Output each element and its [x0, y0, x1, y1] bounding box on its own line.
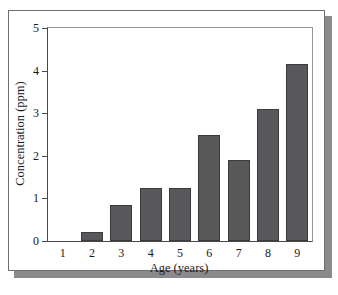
bar[interactable] — [110, 205, 132, 241]
y-axis-tick — [42, 71, 48, 72]
y-axis-tick — [42, 28, 48, 29]
bar-slot — [224, 28, 253, 241]
x-axis-tick-label: 1 — [60, 247, 66, 259]
x-axis-tick-label: 4 — [148, 247, 154, 259]
bar[interactable] — [140, 188, 162, 241]
y-axis-tick — [42, 156, 48, 157]
bar-slot — [136, 28, 165, 241]
bars-layer — [48, 28, 312, 241]
y-axis-tick-label: 2 — [33, 150, 39, 162]
y-axis-tick-label: 5 — [33, 22, 39, 34]
x-axis-tick-label: 9 — [294, 247, 300, 259]
y-axis-tick-label: 3 — [33, 107, 39, 119]
figure-shadow-right — [325, 16, 332, 278]
bar[interactable] — [81, 232, 103, 241]
y-axis-tick — [42, 113, 48, 114]
bar-slot — [283, 28, 312, 241]
bar[interactable] — [198, 135, 220, 242]
figure-root: Concentration (ppm) 012345123456789 Age … — [0, 0, 338, 295]
bar-slot — [48, 28, 77, 241]
y-axis-tick-label: 4 — [33, 65, 39, 77]
bar[interactable] — [228, 160, 250, 241]
y-axis-tick — [42, 241, 48, 242]
x-axis-tick-label: 7 — [236, 247, 242, 259]
bar-slot — [77, 28, 106, 241]
y-axis-tick — [42, 198, 48, 199]
x-axis-tick-label: 5 — [177, 247, 183, 259]
x-axis-title: Age (years) — [47, 262, 311, 275]
x-axis-tick-label: 2 — [89, 247, 95, 259]
bar[interactable] — [257, 109, 279, 241]
y-axis-title: Concentration (ppm) — [12, 27, 28, 240]
x-axis-tick-label: 3 — [118, 247, 124, 259]
bar[interactable] — [286, 64, 308, 241]
bar-slot — [195, 28, 224, 241]
bar-slot — [165, 28, 194, 241]
x-axis-tick-label: 6 — [206, 247, 212, 259]
bar-slot — [253, 28, 282, 241]
x-axis-tick-label: 8 — [265, 247, 271, 259]
bar-slot — [107, 28, 136, 241]
bar[interactable] — [169, 188, 191, 241]
plot-area: 012345123456789 — [47, 27, 313, 242]
y-axis-tick-label: 0 — [33, 235, 39, 247]
y-axis-tick-label: 1 — [33, 192, 39, 204]
